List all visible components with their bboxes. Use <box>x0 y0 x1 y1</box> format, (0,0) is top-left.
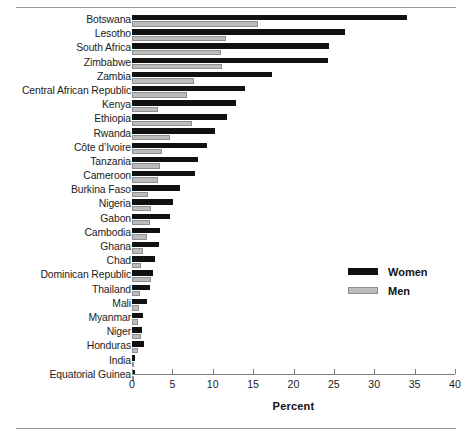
bar-men <box>132 220 150 225</box>
x-tick-label: 10 <box>193 378 233 390</box>
bar-women <box>132 313 143 318</box>
x-tick-label: 5 <box>152 378 192 390</box>
bar-women <box>132 72 272 77</box>
x-tick-label: 15 <box>233 378 273 390</box>
bar-men <box>132 78 194 83</box>
category-label: Myanmar <box>0 311 131 325</box>
category-label: Botswana <box>0 13 131 27</box>
x-tick-mark <box>455 369 456 374</box>
bar-men <box>132 163 160 168</box>
bar-women <box>132 285 150 290</box>
category-label: Tanzania <box>0 155 131 169</box>
chart-figure: BotswanaLesothoSouth AfricaZimbabweZambi… <box>0 0 472 436</box>
chart-row: Zimbabwe <box>0 57 472 71</box>
bar-women <box>132 128 215 133</box>
chart-row: Côte d’Ivoire <box>0 142 472 156</box>
bar-women <box>132 15 407 20</box>
category-label: Dominican Republic <box>0 268 131 282</box>
bar-men <box>132 291 140 296</box>
category-label: Zimbabwe <box>0 56 131 70</box>
x-tick-label: 20 <box>274 378 314 390</box>
category-label: Burkina Faso <box>0 183 131 197</box>
bar-women <box>132 43 329 48</box>
chart-row: Nigeria <box>0 198 472 212</box>
chart-row: South Africa <box>0 42 472 56</box>
category-label: Mali <box>0 297 131 311</box>
chart-row: Honduras <box>0 340 472 354</box>
category-label: Niger <box>0 325 131 339</box>
bar-women <box>132 143 207 148</box>
category-label: Nigeria <box>0 197 131 211</box>
x-tick-label: 30 <box>354 378 394 390</box>
chart-row: India <box>0 355 472 369</box>
x-tick-label: 40 <box>435 378 472 390</box>
category-label: Ethiopia <box>0 112 131 126</box>
bar-men <box>132 36 226 41</box>
chart-row: Myanmar <box>0 312 472 326</box>
x-axis-line <box>132 374 455 375</box>
category-label: Kenya <box>0 98 131 112</box>
legend-label-men: Men <box>388 283 410 299</box>
x-tick-mark <box>374 369 375 374</box>
category-label: Côte d’Ivoire <box>0 141 131 155</box>
bar-women <box>132 242 159 247</box>
x-tick-mark <box>294 369 295 374</box>
bar-men <box>132 263 141 268</box>
category-label: Chad <box>0 254 131 268</box>
chart-row: Niger <box>0 326 472 340</box>
bar-women <box>132 157 198 162</box>
category-label: Thailand <box>0 283 131 297</box>
x-tick-mark <box>415 369 416 374</box>
bar-women <box>132 100 236 105</box>
x-tick-mark <box>334 369 335 374</box>
bar-men <box>132 348 138 353</box>
category-label: Gabon <box>0 212 131 226</box>
bar-men <box>132 135 170 140</box>
bar-women <box>132 86 245 91</box>
bar-women <box>132 256 155 261</box>
chart-row: Ghana <box>0 241 472 255</box>
bar-women <box>132 341 144 346</box>
chart-row: Kenya <box>0 99 472 113</box>
category-label: Honduras <box>0 339 131 353</box>
bar-women <box>132 355 135 360</box>
bar-men <box>132 121 192 126</box>
chart-row: Tanzania <box>0 156 472 170</box>
chart-row: Lesotho <box>0 28 472 42</box>
x-tick-label: 35 <box>395 378 435 390</box>
x-tick-label: 25 <box>314 378 354 390</box>
x-tick-mark <box>172 369 173 374</box>
bar-women <box>132 299 147 304</box>
bar-men <box>132 107 158 112</box>
category-label: Zambia <box>0 70 131 84</box>
chart-row: Central African Republic <box>0 85 472 99</box>
x-tick-mark <box>213 369 214 374</box>
bar-men <box>132 64 222 69</box>
category-label: South Africa <box>0 41 131 55</box>
chart-row: Mali <box>0 298 472 312</box>
chart-row: Cameroon <box>0 170 472 184</box>
chart-row: Gabon <box>0 213 472 227</box>
chart-row: Botswana <box>0 14 472 28</box>
category-label: Cambodia <box>0 226 131 240</box>
bar-men <box>132 21 258 26</box>
bar-men <box>132 248 143 253</box>
plot-area: BotswanaLesothoSouth AfricaZimbabweZambi… <box>0 14 472 374</box>
bar-men <box>132 206 151 211</box>
bar-women <box>132 114 227 119</box>
category-label: Rwanda <box>0 127 131 141</box>
bar-women <box>132 171 195 176</box>
bar-women <box>132 199 173 204</box>
bar-men <box>132 362 134 367</box>
bar-women <box>132 185 180 190</box>
category-label: Lesotho <box>0 27 131 41</box>
bar-women <box>132 214 170 219</box>
bar-women <box>132 327 142 332</box>
category-label: Cameroon <box>0 169 131 183</box>
bar-women <box>132 58 328 63</box>
bar-men <box>132 149 162 154</box>
bar-women <box>132 270 153 275</box>
bottom-divider-rule <box>16 428 456 429</box>
bar-men <box>132 334 141 339</box>
legend-swatch-women-icon <box>348 268 378 275</box>
